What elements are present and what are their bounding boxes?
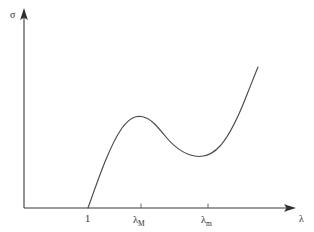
tick-label-lambda-M: λM (133, 214, 145, 228)
y-axis-label: σ (10, 9, 16, 20)
tick-label-lambda-m: λm (201, 214, 212, 228)
x-axis-label: λ (299, 213, 304, 224)
plot-canvas: σ λ 1 λM λm (0, 0, 314, 232)
tick-label-one: 1 (85, 213, 90, 224)
tick-label-lambda-M-subscript: M (138, 219, 145, 228)
tick-label-lambda-m-subscript: m (206, 219, 212, 228)
stress-stretch-curve (88, 67, 258, 208)
stress-stretch-figure: σ λ 1 λM λm (0, 0, 314, 232)
